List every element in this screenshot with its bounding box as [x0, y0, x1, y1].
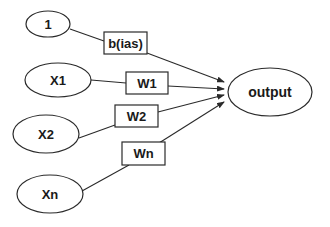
input-node-x1-label: X1 [50, 73, 66, 88]
weight-box-w2-label: W2 [127, 109, 147, 124]
weight-box-w1: W1 [126, 72, 168, 94]
input-node-bias-label: 1 [44, 17, 51, 32]
weight-box-w1-label: W1 [137, 76, 157, 91]
input-node-x1: X1 [25, 63, 91, 97]
weight-box-bias: b(ias) [104, 32, 147, 54]
arrow-w2-to-output [158, 95, 224, 112]
arrow-w1-to-output [168, 86, 224, 89]
weight-box-wn: Wn [122, 142, 165, 165]
edge-x1-to-w1 [91, 80, 126, 83]
weight-box-bias-label: b(ias) [108, 36, 143, 51]
input-node-xn-label: Xn [42, 187, 59, 202]
input-node-x2: X2 [13, 115, 79, 153]
input-node-x2-label: X2 [38, 127, 54, 142]
weight-box-w2: W2 [115, 105, 158, 127]
edge-x2-to-w2 [79, 125, 115, 138]
arrow-wn-to-output [159, 102, 224, 143]
perceptron-diagram: 1 X1 X2 Xn b(ias) W1 W2 Wn output [0, 0, 330, 227]
weight-box-wn-label: Wn [133, 146, 153, 161]
input-node-bias: 1 [26, 11, 70, 37]
output-node: output [228, 68, 312, 116]
edge-xn-to-wn [82, 165, 129, 191]
input-node-xn: Xn [17, 175, 83, 213]
edge-bias-input-to-bias-weight [70, 29, 104, 41]
output-node-label: output [248, 84, 292, 100]
